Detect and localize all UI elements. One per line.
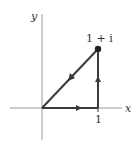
x-axis-label: x bbox=[125, 102, 132, 115]
contour-diagram: y x 1 + i 1 bbox=[0, 0, 140, 144]
y-axis-label: y bbox=[30, 10, 38, 23]
label-one: 1 bbox=[95, 113, 102, 126]
label-one-plus-i: 1 + i bbox=[86, 32, 113, 45]
arrow-right-icon bbox=[76, 105, 82, 111]
point-one-plus-i bbox=[95, 46, 101, 52]
arrow-up-icon bbox=[95, 76, 101, 82]
